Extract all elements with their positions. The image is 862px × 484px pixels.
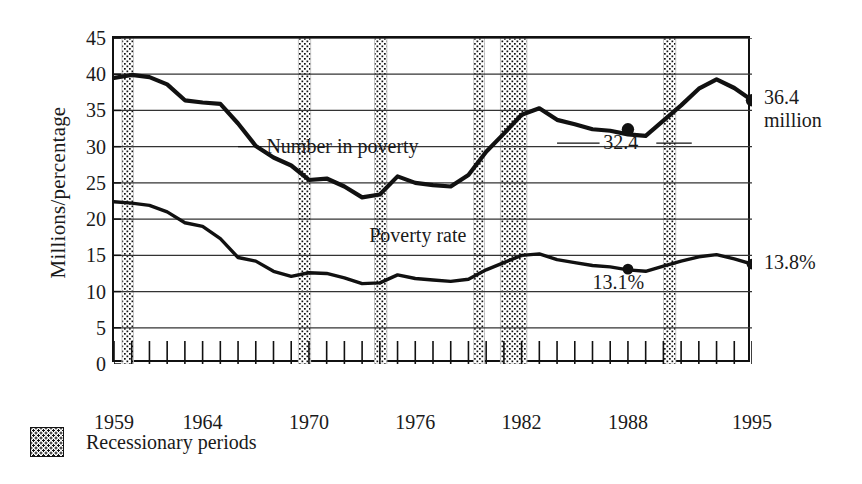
annotation-32-4: 32.4 <box>603 131 638 154</box>
y-tick-label-10: 10 <box>86 282 106 302</box>
end-label-number-unit: million <box>764 109 822 132</box>
y-tick-label-35: 35 <box>86 100 106 120</box>
y-tick-label-25: 25 <box>86 173 106 193</box>
recession-band-swatch <box>30 427 64 457</box>
x-tick-label-1970: 1970 <box>289 412 329 432</box>
x-tick-label-1995: 1995 <box>732 412 772 432</box>
end-label-number-value: 36.4 <box>764 86 822 109</box>
legend: Recessionary periods <box>30 427 257 457</box>
end-label-number-in-poverty: 36.4 million <box>764 86 822 132</box>
series-lines <box>114 75 752 284</box>
recession-bands <box>122 38 676 364</box>
y-tick-label-20: 20 <box>86 209 106 229</box>
y-tick-label-0: 0 <box>96 354 106 374</box>
legend-label-recessionary-periods: Recessionary periods <box>86 431 257 454</box>
x-minor-ticks <box>114 341 752 364</box>
y-tick-label-15: 15 <box>86 245 106 265</box>
annotation-13-1-percent: 13.1% <box>593 271 645 294</box>
series-label-poverty-rate: Poverty rate <box>369 224 466 247</box>
y-tick-label-45: 45 <box>86 28 106 48</box>
x-tick-label-1988: 1988 <box>608 412 648 432</box>
plot-area: Number in poverty Poverty rate 32.4 13.1… <box>112 36 750 362</box>
poverty-chart-figure: Millions/percentage Number in poverty Po… <box>0 0 862 484</box>
y-tick-label-30: 30 <box>86 137 106 157</box>
series-markers <box>622 94 752 274</box>
gridlines <box>114 38 752 328</box>
y-axis-title: Millions/percentage <box>46 43 71 343</box>
x-tick-label-1976: 1976 <box>395 412 435 432</box>
x-tick-label-1982: 1982 <box>502 412 542 432</box>
y-tick-label-5: 5 <box>96 318 106 338</box>
y-tick-label-40: 40 <box>86 64 106 84</box>
chart-svg <box>114 38 752 364</box>
series-label-number-in-poverty: Number in poverty <box>266 135 418 158</box>
end-label-poverty-rate: 13.8% <box>764 251 816 274</box>
